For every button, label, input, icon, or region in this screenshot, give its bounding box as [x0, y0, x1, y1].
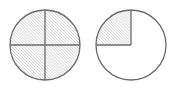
fraction-circles-figure: Fraction circles Two circles of equal si… [0, 0, 174, 88]
whole-circle-group [10, 10, 80, 80]
fraction-circles-svg: Fraction circles Two circles of equal si… [0, 0, 174, 88]
